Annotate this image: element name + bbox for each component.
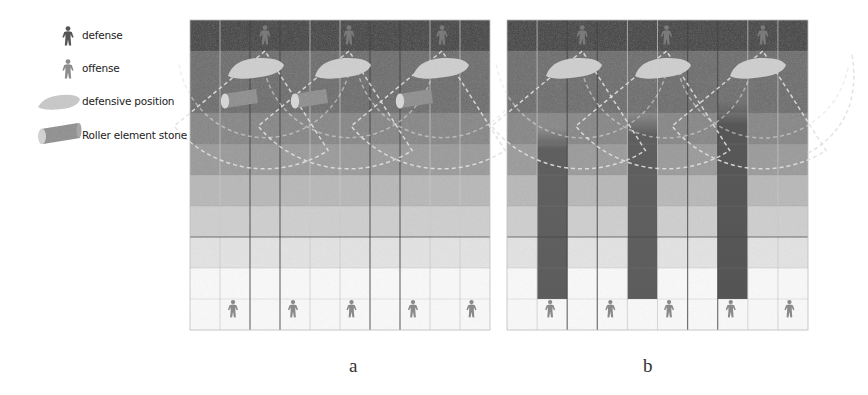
legend-label-defense: defense — [82, 29, 122, 41]
diagram-canvas — [0, 0, 868, 395]
legend — [38, 26, 82, 144]
defense-figure-icon — [62, 26, 73, 45]
legend-label-roller-stone: Roller element stone — [82, 129, 187, 141]
defensive-position-icon — [38, 95, 80, 110]
legend-item-defensive-position — [38, 95, 80, 110]
range-arc-overflow — [808, 54, 854, 153]
legend-item-offense — [62, 59, 73, 78]
offense-figure-icon — [62, 59, 73, 78]
blocking-column — [537, 129, 567, 300]
roller-stone-icon — [38, 123, 82, 144]
blocking-column — [718, 101, 748, 299]
panel-b — [492, 20, 854, 331]
legend-item-defense — [62, 26, 73, 45]
panel-label-b: b — [643, 355, 653, 377]
legend-label-offense: offense — [82, 62, 119, 74]
panel-a — [174, 20, 528, 331]
panel-label-a: a — [349, 355, 357, 377]
legend-item-roller-stone — [38, 123, 82, 144]
legend-label-defensive-position: defensive position — [82, 95, 174, 107]
